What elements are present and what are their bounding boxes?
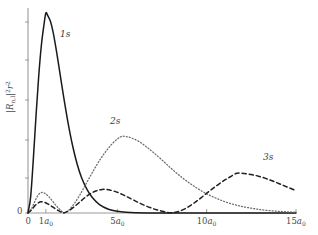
x-tick-label-5: 5a0 [110, 216, 124, 226]
y-origin-label: 0 [17, 206, 22, 216]
curve-3s [28, 173, 296, 213]
x-tick-label-10: 10a0 [197, 216, 217, 226]
curve-label-2s: 2s [110, 116, 120, 126]
x-tick-label-0: 0 [26, 216, 31, 226]
y-axis-label: |Rn,l|2r2 [5, 65, 15, 129]
curve-label-1s: 1s [60, 29, 70, 39]
curve-label-3s: 3s [263, 152, 273, 162]
plot-area [0, 0, 318, 235]
radial-probability-chart: |Rn,l|2r2 0 01a05a010a015a0 1s 2s 3s [0, 0, 318, 235]
curve-1s [28, 13, 296, 213]
curve-2s [28, 136, 296, 213]
x-tick-label-15: 15a0 [286, 216, 306, 226]
x-tick-label-1: 1a0 [39, 216, 53, 226]
curve-group [28, 13, 296, 213]
